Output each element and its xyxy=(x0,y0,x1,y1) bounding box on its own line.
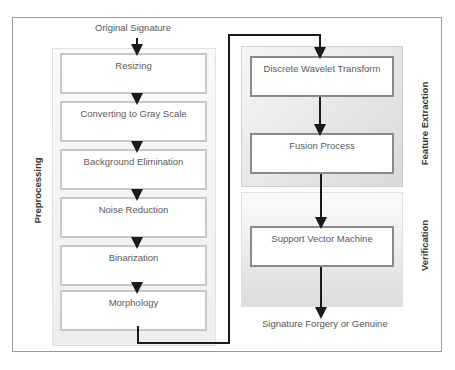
step-resizing: Resizing xyxy=(60,53,207,94)
step-svm: Support Vector Machine xyxy=(250,226,394,267)
section-label-verification: Verification xyxy=(419,206,430,286)
step-fusion: Fusion Process xyxy=(250,133,394,174)
step-gray-scale: Converting to Gray Scale xyxy=(60,101,207,142)
section-label-feature-extraction: Feature Extraction xyxy=(419,69,430,179)
section-label-preprocessing: Preprocessing xyxy=(32,146,43,236)
output-label: Signature Forgery or Genuine xyxy=(262,318,388,329)
step-binarization: Binarization xyxy=(60,245,207,286)
step-background-elimination: Background Elimination xyxy=(60,149,207,190)
step-morphology: Morphology xyxy=(60,290,207,331)
step-dwt: Discrete Wavelet Transform xyxy=(250,56,394,97)
input-label: Original Signature xyxy=(95,22,171,33)
step-noise-reduction: Noise Reduction xyxy=(60,197,207,238)
